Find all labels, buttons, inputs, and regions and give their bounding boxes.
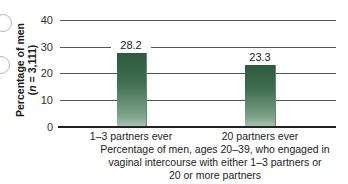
gridline-20: [60, 73, 336, 74]
bar-value-20-partners: 23.3: [240, 51, 280, 63]
x-label-20-partners: 20 partners ever: [200, 130, 320, 142]
chart-caption-line1: Percentage of men, ages 20–39, who engag…: [60, 143, 348, 156]
y-tick-10: 10: [31, 94, 53, 106]
bar-20-partners: [245, 65, 275, 127]
y-tick-0: 0: [31, 121, 53, 133]
bar-value-1-3-partners: 28.2: [111, 39, 151, 51]
gridline-30: [60, 47, 336, 48]
x-label-1-3-partners: 1–3 partners ever: [71, 130, 191, 142]
bar-1-3-partners: [117, 53, 146, 127]
gridline-40: [60, 20, 336, 21]
y-tick-40: 40: [31, 14, 53, 26]
gridline-10: [60, 100, 336, 101]
y-tick-30: 30: [31, 41, 53, 53]
chart-caption-line2: vaginal intercourse with either 1–3 part…: [60, 156, 348, 169]
chart-caption-line3: 20 or more partners: [60, 169, 348, 182]
y-tick-20: 20: [31, 67, 53, 79]
x-axis-line: [58, 126, 336, 128]
y-axis-label-line1: Percentage of men: [14, 23, 26, 117]
